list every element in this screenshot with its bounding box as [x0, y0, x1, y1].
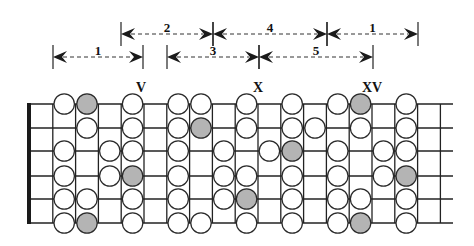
scale-note-dot — [350, 189, 370, 209]
position-span-arrows: 241135 — [53, 20, 418, 69]
scale-note-dot — [214, 166, 234, 186]
scale-note-dot — [236, 166, 256, 186]
scale-note-dot — [168, 189, 188, 209]
span-label: 5 — [313, 43, 320, 58]
scale-note-dot — [54, 141, 74, 161]
scale-note-dot — [373, 166, 393, 186]
scale-note-dot — [236, 118, 256, 138]
scale-note-dot — [236, 213, 256, 233]
scale-note-dot — [328, 166, 348, 186]
scale-note-dot — [259, 141, 279, 161]
scale-note-dot — [396, 189, 416, 209]
position-marker-label: V — [136, 80, 146, 95]
root-note-dot — [122, 166, 142, 186]
scale-note-dot — [328, 94, 348, 114]
arrowhead-right-icon — [129, 51, 143, 63]
scale-note-dot — [122, 189, 142, 209]
scale-note-dot — [350, 118, 370, 138]
root-note-dot — [350, 213, 370, 233]
scale-note-dot — [122, 118, 142, 138]
scale-note-dot — [236, 94, 256, 114]
scale-note-dot — [168, 94, 188, 114]
span-arrow: 5 — [259, 43, 373, 69]
scale-note-dot — [328, 213, 348, 233]
fretboard-diagram: 241135 VXXV — [0, 0, 474, 246]
root-note-dot — [77, 94, 97, 114]
root-note-dot — [77, 213, 97, 233]
arrowhead-right-icon — [404, 28, 418, 40]
scale-note-dot — [77, 118, 97, 138]
scale-note-dot — [396, 141, 416, 161]
scale-note-dot — [168, 213, 188, 233]
span-arrow: 3 — [167, 43, 259, 69]
nut — [27, 103, 31, 224]
scale-note-dot — [54, 213, 74, 233]
position-marker-label: X — [253, 80, 263, 95]
scale-note-dot — [282, 166, 302, 186]
root-note-dot — [236, 189, 256, 209]
scale-note-dot — [191, 94, 211, 114]
scale-note-dot — [191, 213, 211, 233]
scale-note-dot — [396, 118, 416, 138]
scale-note-dot — [168, 166, 188, 186]
position-marker-label: XV — [362, 80, 382, 95]
scale-note-dot — [122, 213, 142, 233]
scale-note-dot — [328, 141, 348, 161]
scale-note-dot — [54, 166, 74, 186]
span-label: 3 — [210, 43, 217, 58]
span-arrow: 2 — [121, 20, 213, 46]
scale-note-dot — [100, 141, 120, 161]
scale-note-dot — [214, 141, 234, 161]
position-markers: VXXV — [136, 80, 382, 95]
scale-note-dot — [396, 94, 416, 114]
span-arrow: 4 — [213, 20, 327, 46]
scale-note-dot — [122, 141, 142, 161]
scale-note-dot — [100, 166, 120, 186]
scale-note-dot — [168, 118, 188, 138]
scale-note-dot — [373, 141, 393, 161]
span-arrow: 1 — [327, 20, 418, 46]
scale-note-dot — [122, 94, 142, 114]
scale-note-dot — [396, 213, 416, 233]
root-note-dot — [191, 118, 211, 138]
scale-note-dot — [54, 189, 74, 209]
root-note-dot — [350, 94, 370, 114]
scale-note-dot — [282, 213, 302, 233]
scale-note-dot — [168, 141, 188, 161]
span-label: 1 — [95, 43, 102, 58]
scale-note-dot — [77, 189, 97, 209]
span-label: 2 — [164, 20, 171, 35]
scale-note-dot — [54, 94, 74, 114]
span-label: 4 — [267, 20, 274, 35]
root-note-dot — [282, 141, 302, 161]
scale-note-dot — [214, 189, 234, 209]
scale-note-dot — [282, 118, 302, 138]
span-label: 1 — [369, 20, 376, 35]
scale-note-dot — [305, 118, 325, 138]
scale-note-dot — [282, 94, 302, 114]
span-arrow: 1 — [53, 43, 143, 69]
scale-note-dot — [328, 189, 348, 209]
scale-note-dot — [282, 189, 302, 209]
root-note-dot — [396, 166, 416, 186]
